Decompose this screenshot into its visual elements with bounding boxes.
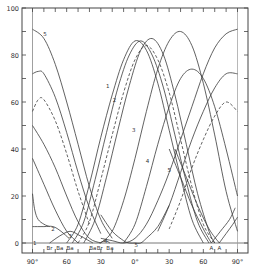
baseline-marker: Br: [97, 245, 104, 251]
curve: [72, 41, 209, 243]
x-tick-label: 30: [97, 258, 105, 266]
curve: [33, 194, 50, 227]
curve: [33, 98, 90, 225]
y-tick-label: 20: [11, 193, 19, 201]
curve-label: 5: [167, 167, 171, 173]
x-tick-label: 60: [63, 258, 71, 266]
chart: 020406080100 90°60300°306090° BrBaBaBaBr…: [0, 0, 260, 271]
baseline-marker: Ba: [89, 245, 96, 251]
x-tick-label: 30: [165, 258, 173, 266]
curve-label: 4: [146, 158, 150, 164]
baseline-marker: Ba: [67, 245, 74, 251]
baseline-marker: Br: [47, 245, 54, 251]
y-tick-label: 100: [7, 5, 19, 13]
curve: [101, 31, 238, 243]
x-tick-label: 0°: [131, 258, 138, 266]
x-tick-label: 90°: [27, 258, 39, 266]
curves: [33, 29, 238, 243]
baseline-marker: Ba: [56, 245, 63, 251]
curve: [33, 126, 101, 244]
curve-label: 5: [134, 242, 138, 248]
curve: [101, 29, 238, 243]
y-axis: 020406080100: [7, 5, 248, 248]
baseline-marker: A: [217, 245, 221, 251]
curve-label: 1: [106, 83, 110, 89]
y-tick-label: 0: [15, 240, 19, 248]
curve-label: 1: [33, 240, 37, 246]
y-tick-label: 60: [11, 99, 19, 107]
x-tick-label: 90°: [232, 258, 244, 266]
curve-label: 2: [113, 97, 117, 103]
curve-label: 3: [132, 127, 136, 133]
x-tick-label: 60: [199, 258, 207, 266]
y-tick-label: 80: [11, 52, 19, 60]
baseline-marker: Ba: [106, 245, 113, 251]
curve-label: 4: [104, 238, 108, 244]
curve: [67, 41, 204, 243]
curve-label: 2: [51, 226, 55, 232]
baseline-marker: A: [209, 245, 213, 251]
curve: [33, 158, 79, 243]
curve-label: 3: [68, 233, 72, 239]
curve: [169, 102, 237, 229]
x-axis: 90°60300°306090°: [27, 8, 244, 266]
curve: [33, 29, 113, 238]
y-tick-label: 40: [11, 146, 19, 154]
curve-label: 5: [43, 31, 47, 37]
curve: [124, 69, 238, 243]
